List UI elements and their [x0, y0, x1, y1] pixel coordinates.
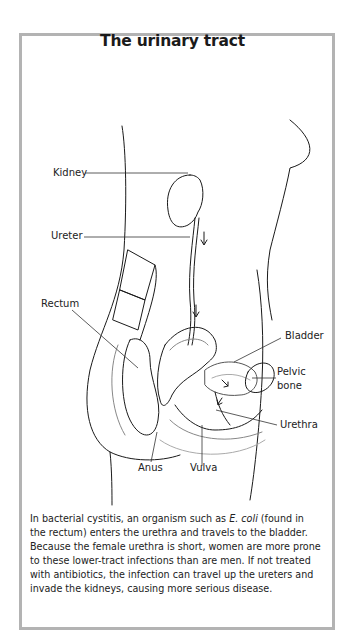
- flow-arrow: [217, 398, 222, 405]
- label-rectum: Rectum: [41, 298, 79, 309]
- anus-leader: [151, 432, 157, 462]
- label-pelvic-bone-line2: bone: [277, 380, 302, 391]
- rectum-leader: [72, 310, 138, 368]
- label-anus: Anus: [138, 462, 163, 473]
- leg-back-outline: [110, 452, 112, 505]
- rectum-shape: [123, 339, 159, 435]
- label-ureter: Ureter: [51, 230, 83, 241]
- figure-caption: In bacterial cystitis, an organism such …: [30, 512, 322, 597]
- label-pelvic-bone-line1: Pelvic: [277, 366, 306, 377]
- kidney-shape: [167, 175, 202, 227]
- caption-text-start: In bacterial cystitis, an organism such …: [30, 513, 229, 524]
- urethra-tube: [215, 392, 230, 425]
- uterus-shape: [158, 327, 217, 405]
- chest-outline: [267, 120, 310, 320]
- flow-arrow: [201, 232, 207, 245]
- bladder-leader: [234, 338, 281, 362]
- flow-arrow: [222, 380, 228, 387]
- caption-organism-name: E. coli: [229, 513, 258, 524]
- label-kidney: Kidney: [53, 167, 87, 178]
- label-bladder: Bladder: [285, 330, 324, 341]
- label-vulva: Vulva: [190, 462, 217, 473]
- caption-text-end: (found in the rectum) enters the urethra…: [30, 513, 321, 594]
- label-urethra: Urethra: [280, 419, 318, 430]
- flow-arrow: [193, 305, 199, 317]
- back-outline: [87, 126, 180, 460]
